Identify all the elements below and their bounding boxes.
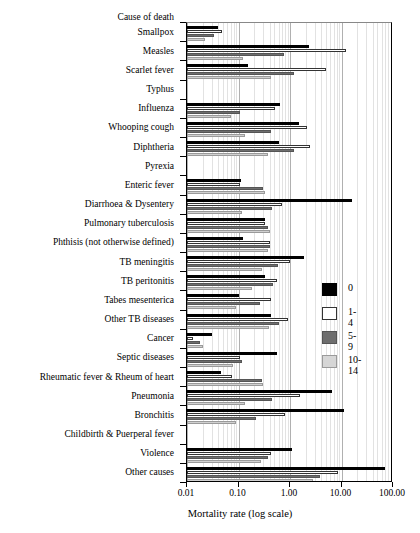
legend-label: 1-4 [348, 306, 356, 328]
bar [187, 72, 294, 75]
category-label: Tabes mesenterica [104, 295, 174, 305]
category-label: Septic diseases [117, 352, 174, 362]
y-axis-title: Cause of death [118, 12, 174, 22]
x-axis-tick [186, 482, 187, 487]
bar [187, 326, 269, 329]
category-label: Enteric fever [125, 180, 174, 190]
bar [187, 207, 272, 210]
bar [187, 264, 278, 267]
bar-group [187, 61, 391, 80]
category-axis: Cause of death SmallpoxMeaslesScarlet fe… [0, 0, 182, 533]
bar-group [187, 445, 391, 464]
bar [187, 475, 320, 478]
bar-group [187, 272, 391, 291]
x-axis-tick-label: 1.00 [281, 488, 298, 498]
bar [187, 26, 218, 29]
bar [187, 345, 203, 348]
bar [187, 390, 332, 393]
bar-group [187, 119, 391, 138]
category-label: Pyrexia [145, 161, 174, 171]
bar [187, 179, 241, 182]
bar [187, 241, 270, 244]
bar [187, 245, 270, 248]
bar [187, 371, 221, 374]
bar [187, 130, 271, 133]
bar [187, 479, 313, 482]
bar [187, 294, 239, 297]
bar [187, 452, 271, 455]
bar [187, 222, 265, 225]
bar [187, 356, 240, 359]
bar [187, 122, 299, 125]
bar-group [187, 387, 391, 406]
x-axis-tick-label: 10.00 [330, 488, 351, 498]
legend-label: 5-9 [348, 330, 356, 352]
bar [187, 287, 252, 290]
bar [187, 256, 304, 259]
category-label: Scarlet fever [126, 65, 174, 75]
bar [187, 199, 352, 202]
category-label: TB meningitis [119, 257, 174, 267]
bar [187, 322, 279, 325]
category-label: Diphtheria [133, 142, 174, 152]
x-axis-tick-label: 0.10 [229, 488, 246, 498]
category-label: Pneumonia [131, 391, 174, 401]
bar-group [187, 196, 391, 215]
category-label: Phthisis (not otherwise defined) [53, 237, 174, 247]
bar-group [187, 176, 391, 195]
x-axis-tick-label: 0.01 [178, 488, 195, 498]
bar [187, 298, 271, 301]
bar-group [187, 42, 391, 61]
category-label: TB peritonitis [121, 276, 174, 286]
category-label: Rheumatic fever & Rheum of heart [40, 372, 174, 382]
bar [187, 352, 277, 355]
bar [187, 268, 262, 271]
legend-swatch [322, 331, 337, 344]
bar [187, 103, 280, 106]
x-axis-tick [238, 482, 239, 487]
bar [187, 203, 282, 206]
bar [187, 187, 263, 190]
category-label: Cancer [147, 333, 174, 343]
bar [187, 237, 243, 240]
bar [187, 249, 268, 252]
bar-group [187, 464, 391, 482]
bar [187, 364, 233, 367]
bar [187, 260, 290, 263]
bar-group [187, 157, 391, 176]
plot-area [186, 22, 392, 482]
bar [187, 211, 242, 214]
legend-label: 10-14 [348, 354, 361, 376]
category-label: Typhus [146, 84, 174, 94]
bar [187, 68, 326, 71]
bar [187, 149, 294, 152]
bar [187, 460, 261, 463]
bar-group [187, 311, 391, 330]
bar [187, 413, 285, 416]
bar [187, 107, 275, 110]
bar [187, 379, 262, 382]
mortality-bar-chart: Cause of death SmallpoxMeaslesScarlet fe… [0, 0, 420, 533]
bar [187, 145, 310, 148]
x-axis-tick [392, 482, 393, 487]
bar [187, 191, 265, 194]
bar-group [187, 100, 391, 119]
bar [187, 126, 307, 129]
x-axis-tick [289, 482, 290, 487]
x-axis-title: Mortality rate (log scale) [0, 508, 420, 519]
bar [187, 134, 245, 137]
category-label: Other causes [125, 467, 174, 477]
category-label: Smallpox [138, 27, 174, 37]
bar [187, 302, 260, 305]
bar [187, 279, 277, 282]
bar [187, 45, 309, 48]
bar [187, 394, 300, 397]
category-label: Whooping cough [108, 122, 174, 132]
bar [187, 314, 271, 317]
x-axis-tick [341, 482, 342, 487]
bar [187, 76, 271, 79]
bar [187, 115, 231, 118]
legend-swatch [322, 307, 337, 320]
category-label: Pulmonary tuberculosis [84, 218, 174, 228]
bar [187, 49, 346, 52]
